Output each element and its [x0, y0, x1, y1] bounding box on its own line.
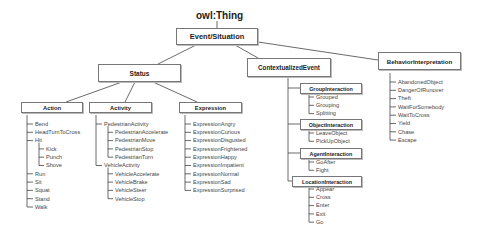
leaf-class[interactable]: Chase [398, 128, 414, 136]
status-node[interactable]: Status [98, 64, 181, 82]
leaf-class[interactable]: PedestrianStop [115, 145, 153, 153]
leaf-class[interactable]: Walk [35, 203, 47, 211]
leaf-class[interactable]: Escape [398, 136, 417, 144]
leaf-class[interactable]: ExpressionSurprised [193, 186, 245, 194]
contextualized-event-node[interactable]: ContextualizedEvent [247, 58, 331, 77]
leaf-class[interactable]: ExpressionNormal [193, 170, 239, 178]
leaf-class[interactable]: Squat [35, 186, 50, 194]
leaf-class[interactable]: Theft [398, 94, 411, 102]
leaf-class[interactable]: HeadTurnToCross [35, 128, 80, 136]
leaf-class[interactable]: WaitToCross [398, 111, 430, 119]
leaf-class[interactable]: VehicleStop [115, 195, 145, 203]
leaf-class[interactable]: Go [316, 218, 323, 226]
leaf-class[interactable]: Grouped [316, 93, 338, 101]
leaf-class[interactable]: ExpressionAngry [193, 120, 235, 128]
leaf-class[interactable]: PedestrianTurn [115, 153, 153, 161]
leaf-class[interactable]: Hit [35, 136, 42, 144]
leaf-class[interactable]: ExpressionSad [193, 178, 231, 186]
leaf-class[interactable]: Grouping [316, 101, 339, 109]
leaf-class[interactable]: ExpressionHappy [193, 153, 237, 161]
action-node[interactable]: Action [21, 102, 83, 113]
leaf-class[interactable]: Cross [316, 193, 331, 201]
leaf-class[interactable]: VehicleSteer [115, 186, 146, 194]
activity-node[interactable]: Activity [89, 102, 152, 113]
leaf-class[interactable]: Shove [46, 161, 62, 169]
leaf-class[interactable]: DangerOfRunover [398, 86, 443, 94]
leaf-class[interactable]: Enter [316, 201, 329, 209]
leaf-class[interactable]: WaitForSomebody [398, 103, 444, 111]
leaf-class[interactable]: Fight [316, 166, 328, 174]
leaf-class[interactable]: AbandonedObject [398, 78, 443, 86]
behavior-interpretation-node[interactable]: BehaviorInterpretation [378, 52, 461, 70]
leaf-class[interactable]: Run [35, 170, 45, 178]
leaf-class[interactable]: ExpressionImpatient [193, 161, 244, 169]
leaf-class[interactable]: ExpressionDisgusted [193, 136, 246, 144]
leaf-class[interactable]: GoAfter [316, 158, 335, 166]
event-situation-node[interactable]: Event/Situation [176, 28, 258, 45]
root-label: owl:Thing [196, 10, 243, 21]
leaf-class[interactable]: VehicleAccelerate [115, 170, 159, 178]
leaf-class[interactable]: Appear [316, 185, 334, 193]
leaf-class[interactable]: Kick [46, 145, 57, 153]
leaf-class[interactable]: ExpressionFrightened [193, 145, 247, 153]
leaf-class[interactable]: VehicleBrake [115, 178, 148, 186]
leaf-class[interactable]: Stand [35, 195, 50, 203]
leaf-class[interactable]: Exit [316, 210, 325, 218]
leaf-class[interactable]: Sit [35, 178, 42, 186]
leaf-class[interactable]: PickUpObject [316, 137, 350, 145]
leaf-class[interactable]: VehicleActivity [104, 161, 140, 169]
leaf-class[interactable]: Splitting [316, 109, 336, 117]
leaf-class[interactable]: ExpressionCurious [193, 128, 240, 136]
leaf-class[interactable]: LeaveObject [316, 129, 347, 137]
leaf-class[interactable]: Punch [46, 153, 62, 161]
leaf-class[interactable]: Bend [35, 120, 48, 128]
leaf-class[interactable]: PedestrianAccelerate [115, 128, 168, 136]
leaf-class[interactable]: PedestrianActivity [104, 120, 148, 128]
expression-node[interactable]: Expression [179, 102, 242, 113]
leaf-class[interactable]: PedestrianMove [115, 136, 155, 144]
leaf-class[interactable]: Yield [398, 119, 410, 127]
